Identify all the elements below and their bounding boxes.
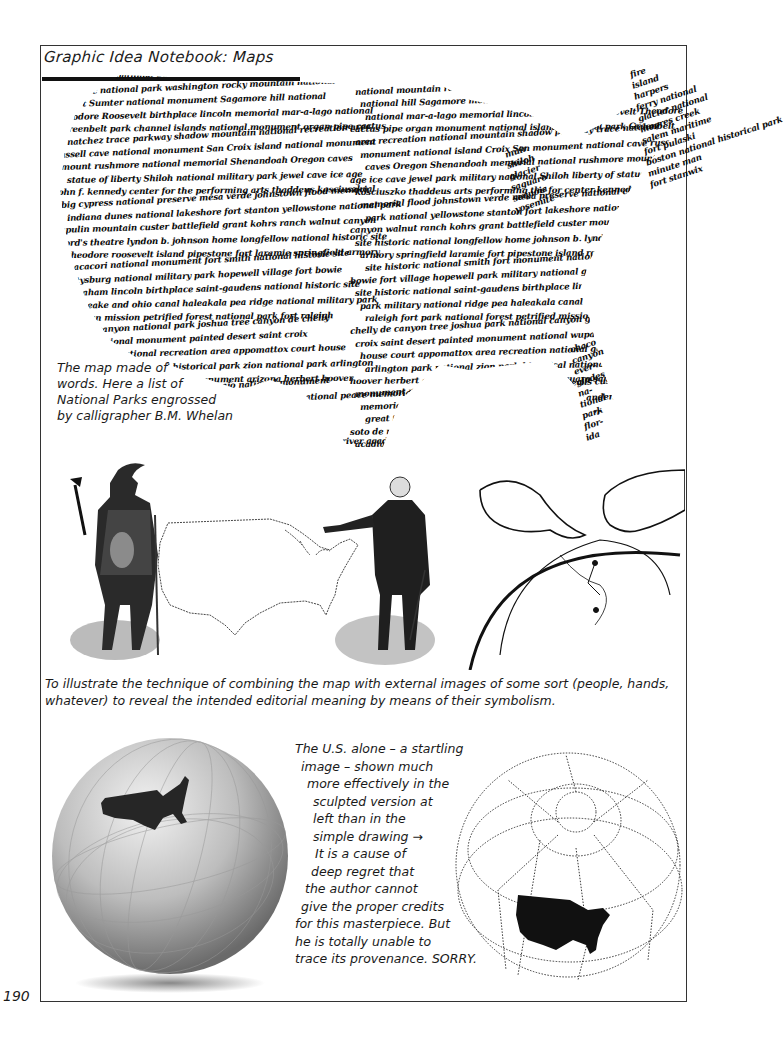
note-line: give the proper credits [295, 898, 470, 916]
note-line: The U.S. alone – a startling [295, 740, 470, 758]
caption-line: whatever) to reveal the intended editori… [45, 692, 685, 709]
note-line: for this masterpiece. But [295, 915, 470, 933]
note-line: the author cannot [295, 880, 470, 898]
note-line: trace its provenance. SORRY. [295, 950, 470, 968]
caption-line: To illustrate the technique of combining… [45, 675, 685, 692]
word-map-line: statue of liberty Shiloh national milita… [67, 169, 363, 185]
note-line: sculpted version at [295, 793, 470, 811]
page-number: 190 [3, 988, 30, 1004]
globe-sphere [52, 738, 288, 974]
note-line: simple drawing → [295, 828, 470, 846]
note-line: image – shown much [295, 758, 470, 776]
word-map-caption: The map made of words. Here a list of Na… [57, 360, 257, 424]
caption-line: National Parks engrossed [57, 392, 257, 408]
note-line: he is totally unable to [295, 933, 470, 951]
caption-line: by calligrapher B.M. Whelan [57, 408, 257, 424]
george-washington-figure [323, 477, 435, 665]
us-outline-map [158, 519, 358, 635]
hands-globe-illustration [470, 470, 685, 670]
illustration-row [40, 455, 685, 670]
word-map-line: ford's theatre lyndon b. johnson home lo… [61, 231, 387, 248]
simple-globe-drawing [448, 740, 688, 990]
note-line: It is a cause of [295, 845, 470, 863]
us-silhouette [516, 895, 610, 954]
technique-caption: To illustrate the technique of combining… [45, 675, 685, 709]
note-line: deep regret that [295, 863, 470, 881]
sculpted-globe [45, 718, 295, 998]
note-line: more effectively in the [295, 775, 470, 793]
caption-line: words. Here a list of [57, 376, 257, 392]
caption-line: The map made of [57, 360, 257, 376]
native-american-figure [70, 463, 160, 660]
note-line: left than in the [295, 810, 470, 828]
dotted-gridlines [456, 753, 682, 980]
globe-notes: The U.S. alone – a startling image – sho… [295, 740, 470, 968]
globe-shadow [75, 973, 265, 993]
